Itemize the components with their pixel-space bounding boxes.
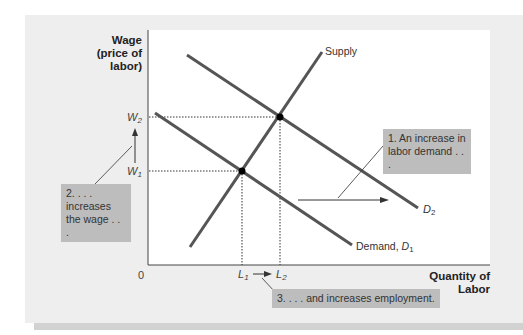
supply-label: Supply: [325, 45, 357, 58]
origin-label: 0: [138, 269, 144, 282]
employment-arrowhead: [264, 271, 272, 277]
y-axis-title: Wage (price of labor): [70, 34, 142, 73]
w1-label: W1: [127, 165, 142, 181]
demand-d1-curve: [155, 113, 352, 245]
equilibrium-point-2: [277, 114, 284, 121]
callout-employment-increase: 3. . . . and increases employment.: [272, 289, 440, 308]
d2-label: D2: [423, 203, 435, 219]
callout-demand-increase: 1. An increase in labor demand . . .: [383, 129, 471, 174]
w2-label: W2: [127, 111, 142, 127]
callout-wage-increase: 2. . . . increases the wage . . .: [61, 184, 131, 242]
l2-label: L2: [276, 268, 287, 284]
demand-d1-label: Demand, D1: [356, 240, 414, 256]
wage-arrowhead: [132, 128, 138, 136]
leader-line-1: [338, 146, 383, 198]
equilibrium-point-1: [239, 168, 246, 175]
l1-label: L1: [238, 268, 249, 284]
shift-arrowhead: [380, 197, 389, 203]
